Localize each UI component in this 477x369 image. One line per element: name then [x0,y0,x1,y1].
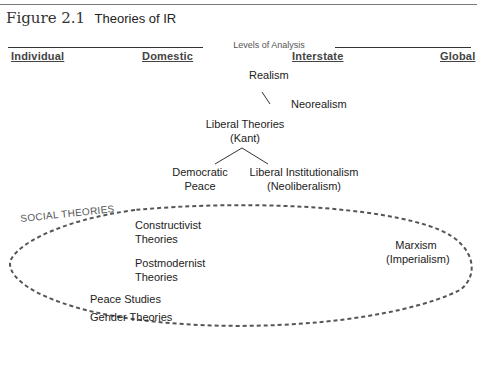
node-liberal-institutionalism: Liberal Institutionalism (Neoliberalism) [249,165,359,193]
node-postmodernist: Postmodernist Theories [135,256,205,284]
liberal-institutionalism-connector [242,148,268,164]
realism-neorealism-connector [262,92,270,104]
diagram-connectors [0,0,477,369]
node-peace-studies: Peace Studies [90,292,161,306]
node-realism: Realism [249,68,289,82]
node-constructivist: Constructivist Theories [135,218,201,246]
node-liberal-theories: Liberal Theories (Kant) [205,117,285,145]
liberal-democratic-connector [215,148,242,164]
node-democratic-peace: Democratic Peace [170,165,230,193]
node-gender-theories: Gender Theories [90,310,172,324]
node-neorealism: Neorealism [291,97,347,111]
node-marxism: Marxism (Imperialism) [386,238,446,266]
